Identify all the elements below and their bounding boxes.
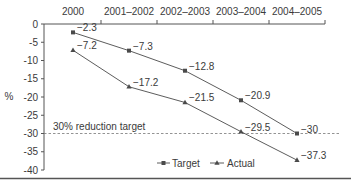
target-data-label: −7.3 bbox=[133, 41, 153, 52]
axes: 0-5-10-15-20-25-30-35-40%20002001–200220… bbox=[0, 6, 351, 179]
square-marker-icon bbox=[183, 69, 187, 73]
triangle-marker-icon bbox=[126, 84, 131, 89]
actual-data-label: −29.5 bbox=[245, 122, 271, 133]
y-tick-label: -20 bbox=[24, 92, 39, 103]
actual-data-label: −17.2 bbox=[133, 77, 159, 88]
actual-data-label: −37.3 bbox=[301, 150, 327, 161]
legend-target-label: Target bbox=[172, 158, 200, 169]
y-tick-label: -15 bbox=[24, 73, 39, 84]
data-labels: −2.3−7.3−12.8−20.9−30−7.2−17.2−21.5−29.5… bbox=[77, 22, 327, 161]
target-data-label: −30 bbox=[301, 124, 318, 135]
y-tick-label: -5 bbox=[29, 37, 38, 48]
legend: TargetActual bbox=[157, 158, 255, 169]
actual-line bbox=[73, 50, 297, 160]
x-tick-label: 2000 bbox=[62, 6, 85, 17]
target-data-label: −20.9 bbox=[245, 90, 271, 101]
x-tick-label: 2001–2002 bbox=[104, 6, 154, 17]
actual-data-label: −7.2 bbox=[77, 40, 97, 51]
x-tick-label: 2003–2004 bbox=[216, 6, 266, 17]
square-marker-icon bbox=[239, 98, 243, 102]
y-tick-label: -10 bbox=[24, 55, 39, 66]
x-tick-label: 2004–2005 bbox=[272, 6, 322, 17]
square-marker-icon bbox=[127, 49, 131, 53]
y-tick-label: -25 bbox=[24, 110, 39, 121]
reference-line-label: 30% reduction target bbox=[53, 121, 146, 132]
legend-actual-label: Actual bbox=[227, 158, 255, 169]
square-marker-icon bbox=[295, 132, 299, 136]
x-tick-label: 2002–2003 bbox=[160, 6, 210, 17]
line-chart: 0-5-10-15-20-25-30-35-40%20002001–200220… bbox=[0, 0, 351, 183]
triangle-marker-icon bbox=[214, 160, 219, 165]
target-data-label: −2.3 bbox=[77, 22, 97, 33]
target-line bbox=[73, 32, 297, 133]
y-tick-label: 0 bbox=[32, 19, 38, 30]
triangle-marker-icon bbox=[70, 47, 75, 52]
y-axis-label: % bbox=[5, 91, 14, 102]
y-tick-label: -40 bbox=[24, 165, 39, 176]
square-marker-icon bbox=[162, 161, 166, 165]
target-data-label: −12.8 bbox=[189, 61, 215, 72]
y-tick-label: -30 bbox=[24, 128, 39, 139]
y-tick-label: -35 bbox=[24, 146, 39, 157]
series-actual bbox=[70, 47, 299, 161]
actual-data-label: −21.5 bbox=[189, 92, 215, 103]
square-marker-icon bbox=[71, 30, 75, 34]
